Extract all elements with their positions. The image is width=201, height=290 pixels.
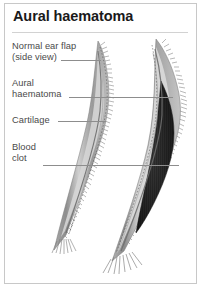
- aural-haematoma-card: Aural haematoma: [0, 0, 201, 290]
- label-normal-ear-flap-line1: Normal ear flap: [12, 41, 76, 52]
- label-normal-ear-flap-line2: (side view): [12, 52, 76, 63]
- label-blood-clot-line2: clot: [12, 153, 36, 164]
- label-aural-haematoma-line1: Aural: [12, 78, 62, 89]
- label-blood-clot: Blood clot: [12, 142, 36, 165]
- normal-ear-figure: [52, 41, 114, 254]
- label-cartilage: Cartilage: [12, 115, 50, 126]
- label-normal-ear-flap: Normal ear flap (side view): [12, 41, 76, 64]
- leader-line-cartilage: [58, 121, 106, 122]
- label-blood-clot-line1: Blood: [12, 142, 36, 153]
- leader-line-blood-clot: [43, 165, 179, 166]
- label-aural-haematoma-line2: haematoma: [12, 89, 62, 100]
- label-aural-haematoma: Aural haematoma: [12, 78, 62, 101]
- haematoma-ear-figure: [103, 39, 187, 274]
- label-cartilage-line1: Cartilage: [12, 115, 50, 126]
- haematoma-ear-base-tuft: [103, 252, 142, 274]
- leader-line-aural-haematoma: [69, 97, 173, 98]
